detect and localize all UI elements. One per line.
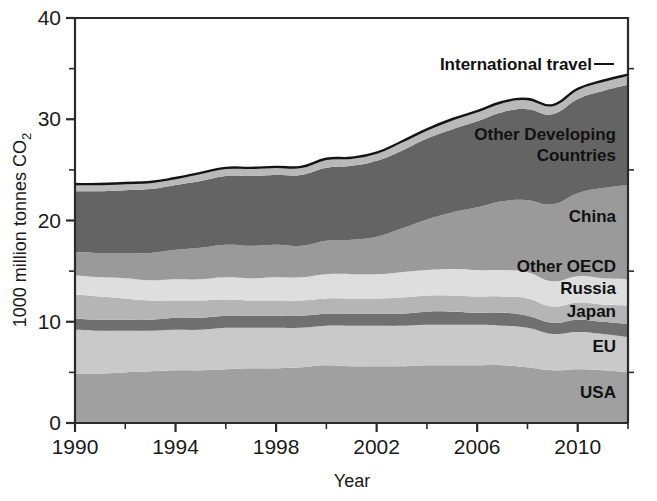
series-label-eu: EU	[592, 337, 616, 356]
x-tick-labels: 199019941998200220062010	[52, 435, 601, 458]
series-label-japan: Japan	[567, 302, 616, 321]
y-tick-label: 10	[38, 310, 61, 333]
series-label-china: China	[569, 207, 617, 226]
series-label-usa: USA	[580, 383, 616, 402]
y-tick-labels: 010203040	[38, 6, 61, 434]
stacked-area-chart: 199019941998200220062010 010203040 Inter…	[0, 0, 657, 501]
area-band-usa	[75, 365, 628, 423]
chart-svg: 199019941998200220062010 010203040 Inter…	[0, 0, 657, 501]
series-label-russia: Russia	[560, 279, 616, 298]
series-label-international-travel: International travel	[440, 55, 592, 74]
y-tick-label: 20	[38, 209, 61, 232]
x-tick-label: 1998	[253, 435, 300, 458]
y-tick-label: 0	[49, 411, 61, 434]
y-tick-label: 40	[38, 6, 61, 29]
x-tick-label: 2010	[554, 435, 601, 458]
x-tick-label: 1990	[52, 435, 99, 458]
x-axis-title: Year	[334, 471, 370, 491]
x-tick-label: 2002	[353, 435, 400, 458]
x-tick-label: 2006	[454, 435, 501, 458]
y-tick-label: 30	[38, 107, 61, 130]
x-tick-label: 1994	[152, 435, 199, 458]
series-label-other-oecd: Other OECD	[517, 257, 616, 276]
y-axis-title: 1000 million tonnes CO2	[10, 133, 34, 327]
